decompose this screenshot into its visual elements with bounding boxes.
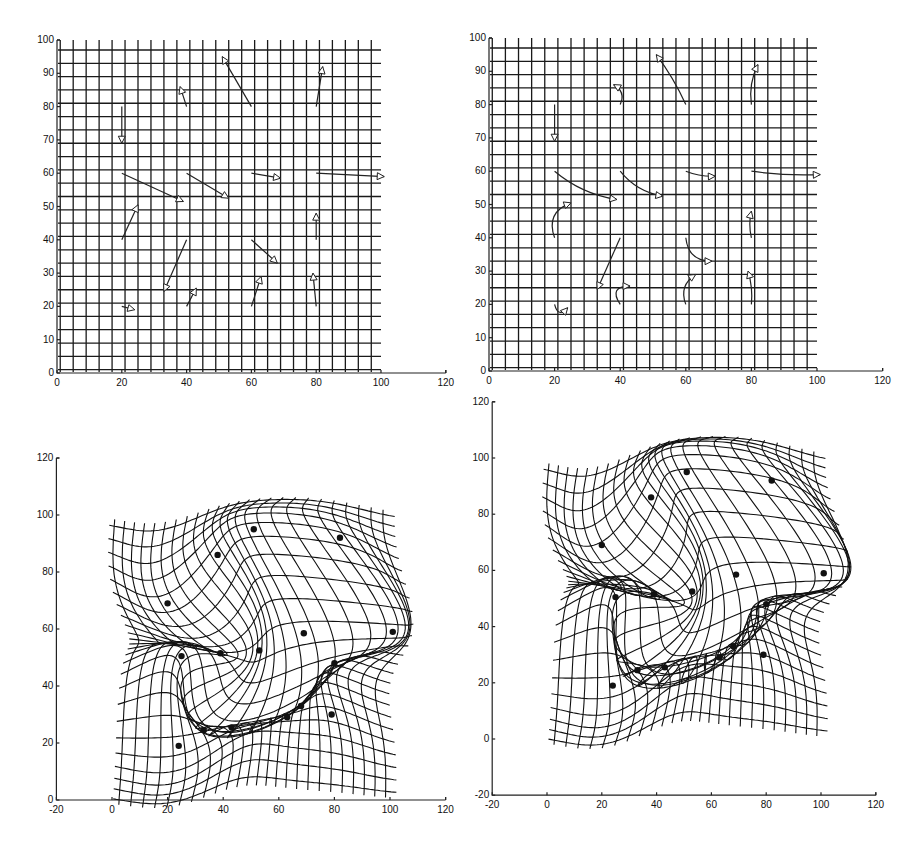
x-tick-label: 120 — [874, 375, 891, 386]
landmark-dot — [716, 654, 722, 660]
x-tick-label: 20 — [116, 377, 128, 388]
displacement-arrow — [187, 173, 229, 198]
arrowhead-icon — [273, 174, 280, 181]
landmark-dot — [298, 703, 304, 709]
x-tick-label: 40 — [651, 799, 663, 810]
landmark-dot — [651, 591, 657, 597]
x-tick-label: 120 — [437, 804, 454, 815]
y-tick-label: 70 — [475, 132, 487, 143]
displacement-arrow — [555, 171, 617, 202]
arrowhead-icon — [609, 195, 616, 202]
displacement-arrow — [686, 171, 716, 180]
arrowhead-icon — [132, 205, 138, 213]
y-tick-label: 90 — [43, 67, 55, 78]
x-tick-label: 100 — [382, 804, 399, 815]
landmark-dot — [634, 667, 640, 673]
displacement-arrow — [551, 105, 558, 142]
y-tick-label: 40 — [43, 234, 55, 245]
y-tick-label: 40 — [478, 621, 490, 632]
x-tick-label: 80 — [311, 377, 323, 388]
x-tick-label: 80 — [761, 799, 773, 810]
x-tick-label: 60 — [273, 804, 285, 815]
y-tick-label: 20 — [478, 677, 490, 688]
landmark-dot — [599, 542, 605, 548]
x-tick-label: 60 — [246, 377, 258, 388]
regular-grid — [58, 40, 381, 372]
landmark-dot — [256, 647, 262, 653]
landmark-dot — [662, 664, 668, 670]
y-tick-label: 40 — [475, 232, 487, 243]
displacement-arrow — [164, 240, 187, 292]
y-tick-label: 20 — [475, 298, 487, 309]
x-tick-label: 120 — [867, 799, 884, 810]
y-tick-label: 100 — [37, 509, 54, 520]
landmark-dot — [164, 600, 170, 606]
y-tick-label: 30 — [43, 267, 55, 278]
displacement-arrow — [122, 173, 184, 202]
landmark-dot — [214, 552, 220, 558]
x-tick-label: 60 — [706, 799, 718, 810]
arrowhead-icon — [708, 173, 715, 180]
y-tick-label: 100 — [469, 32, 486, 43]
x-tick-label: 20 — [162, 804, 174, 815]
arrowhead-icon — [623, 283, 630, 290]
landmark-dot — [733, 571, 739, 577]
landmark-dot — [821, 570, 827, 576]
axis-lines — [56, 458, 445, 800]
x-tick-label: 40 — [181, 377, 193, 388]
y-tick-label: 10 — [475, 332, 487, 343]
y-tick-label: 60 — [475, 165, 487, 176]
x-tick-label: 20 — [549, 375, 561, 386]
x-tick-label: 100 — [813, 799, 830, 810]
y-tick-label: 50 — [43, 201, 55, 212]
landmark-dot — [612, 594, 618, 600]
arrowhead-icon — [256, 276, 263, 284]
displacement-arrow — [751, 171, 820, 178]
x-tick-label: 0 — [544, 799, 550, 810]
landmark-dot — [763, 601, 769, 607]
y-tick-label: 10 — [43, 334, 55, 345]
displacement-arrow — [555, 304, 568, 315]
landmark-dot — [331, 660, 337, 666]
deformed-grid — [542, 436, 851, 749]
y-tick-label: 20 — [42, 737, 54, 748]
x-tick-label: -20 — [485, 799, 500, 810]
landmark-dot — [201, 727, 207, 733]
arrowhead-icon — [551, 134, 558, 141]
axis-lines — [492, 402, 876, 795]
x-tick-label: 80 — [746, 375, 758, 386]
x-tick-label: 20 — [596, 799, 608, 810]
landmark-dot — [730, 643, 736, 649]
x-tick-label: 0 — [54, 377, 60, 388]
y-tick-label: 20 — [43, 300, 55, 311]
panel-bottom-right-folded-warped-grid: -20020406080100120-20020406080100120 — [473, 396, 885, 810]
x-tick-label: 60 — [680, 375, 692, 386]
y-tick-label: 0 — [480, 365, 486, 376]
panel-bottom-left-warped-grid: -20020406080100120020406080100120 — [37, 452, 455, 815]
landmark-dot — [228, 724, 234, 730]
y-tick-label: 120 — [37, 452, 54, 463]
landmark-dot — [760, 652, 766, 658]
displacement-arrow — [118, 107, 125, 144]
landmark-dot — [178, 653, 184, 659]
landmark-dot — [251, 526, 257, 532]
arrowhead-icon — [221, 192, 229, 199]
arrowhead-icon — [179, 87, 186, 95]
displacement-arrow — [316, 173, 384, 180]
displacement-arrow — [313, 213, 320, 240]
y-tick-label: 0 — [48, 794, 54, 805]
panel-top-right-curved-arrow-grid: 0204060801001200102030405060708090100 — [469, 32, 891, 386]
arrowhead-icon — [705, 258, 712, 265]
y-tick-label: 100 — [473, 452, 490, 463]
arrowhead-icon — [813, 171, 820, 178]
y-tick-label: 60 — [43, 167, 55, 178]
landmark-dot — [610, 682, 616, 688]
x-tick-label: 40 — [615, 375, 627, 386]
arrowhead-icon — [313, 213, 320, 220]
x-tick-label: 40 — [218, 804, 230, 815]
landmark-dot — [648, 494, 654, 500]
y-tick-label: 60 — [42, 623, 54, 634]
landmark-dot — [217, 650, 223, 656]
arrowhead-icon — [118, 136, 125, 143]
arrowhead-icon — [746, 211, 753, 219]
